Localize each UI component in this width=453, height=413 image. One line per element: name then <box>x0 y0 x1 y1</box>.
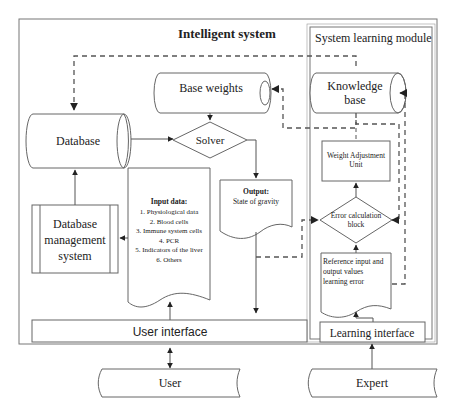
arrow-learning-to-reference <box>356 312 373 322</box>
solver-label: Solver <box>196 134 225 146</box>
expert-node: Expert <box>308 369 437 397</box>
solver-node: Solver <box>173 122 247 158</box>
input-data-heading: Input data: <box>151 197 187 206</box>
reference-node: Reference input and output values learni… <box>321 253 391 317</box>
user-label: User <box>159 376 182 390</box>
user-interface-node: User interface <box>32 320 307 342</box>
weight-adjustment-label-1: Weight Adjustment <box>327 151 386 160</box>
user-node: User <box>98 369 240 397</box>
input-data-item: 6. Others <box>156 256 182 264</box>
reference-label-1: Reference input and <box>323 257 384 266</box>
database-label: Database <box>56 134 100 148</box>
arrow-solver-to-output <box>247 140 256 178</box>
error-calc-label-2: block <box>348 220 365 229</box>
output-node: Output: State of gravity <box>220 180 292 238</box>
dbms-node: Database management system <box>32 205 118 273</box>
input-data-item: 2. Blood cells <box>150 218 189 226</box>
weight-adjustment-node: Weight Adjustment Unit <box>322 141 390 181</box>
error-calc-label-1: Error calculation <box>331 211 382 220</box>
output-heading: Output: <box>243 187 269 196</box>
intelligent-system-diagram: Intelligent system System learning modul… <box>0 0 453 413</box>
database-node: Database <box>26 114 131 168</box>
dbms-label-3: system <box>58 249 92 263</box>
expert-label: Expert <box>356 376 389 390</box>
base-weights-label: Base weights <box>179 81 243 95</box>
knowledge-base-label-1: Knowledge <box>327 79 382 93</box>
reference-label-3: learning error <box>323 277 365 286</box>
dbms-label-1: Database <box>53 217 97 231</box>
input-data-item: 1. Physiological data <box>140 208 199 216</box>
input-data-item: 3. Immune system cells <box>136 227 202 235</box>
knowledge-base-node: Knowledge base <box>310 73 406 113</box>
error-calc-node: Error calculation block <box>320 197 392 243</box>
input-data-item: 4. PCR <box>159 237 180 245</box>
intelligent-system-title: Intelligent system <box>178 26 276 41</box>
input-data-node: Input data: 1. Physiological data 2. Blo… <box>128 168 210 307</box>
base-weights-node: Base weights <box>154 73 271 113</box>
learning-interface-node: Learning interface <box>320 322 425 342</box>
weight-adjustment-label-2: Unit <box>349 160 363 169</box>
input-data-item: 5. Indicators of the liver <box>135 246 203 254</box>
dbms-label-2: management <box>44 233 106 247</box>
learning-interface-label: Learning interface <box>330 327 415 340</box>
learning-module-title: System learning module <box>315 31 432 45</box>
knowledge-base-label-2: base <box>344 93 365 107</box>
user-interface-label: User interface <box>133 325 208 339</box>
reference-label-2: output values <box>323 267 363 276</box>
output-value: State of gravity <box>233 197 279 206</box>
